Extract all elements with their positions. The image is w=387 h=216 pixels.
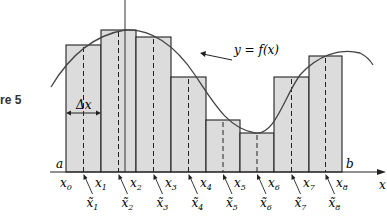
x-axis-label: x	[379, 178, 386, 192]
partition-label: x2	[130, 176, 142, 192]
delta-x-label: Δx	[75, 98, 92, 112]
sample-label: x̃1	[87, 196, 99, 212]
partition-label: x3	[165, 176, 177, 192]
sample-label: x̃4	[192, 196, 204, 212]
partition-label: x1	[95, 176, 107, 192]
partition-label: x6	[268, 176, 280, 192]
sample-label: x̃6	[260, 196, 272, 212]
sample-labels: x̃1x̃2x̃3x̃4x̃5x̃6x̃7x̃8	[84, 174, 341, 212]
partition-label: x5	[234, 176, 246, 192]
sample-label: x̃3	[157, 196, 169, 212]
partition-labels: x0x1x2x3x4x5x6x7x8	[60, 176, 348, 192]
riemann-rectangles	[66, 30, 342, 172]
riemann-sum-diagram: Δx y = f(x) a b x x0x1x2x3x4x5x6x7x8 x̃1…	[0, 0, 387, 216]
partition-label: x8	[336, 176, 348, 192]
function-label: y = f(x)	[233, 43, 279, 57]
partition-label: x0	[60, 176, 72, 192]
partition-label: x7	[303, 176, 316, 192]
partition-label: x4	[200, 176, 212, 192]
function-label-pointer	[203, 54, 232, 60]
endpoint-b: b	[346, 157, 354, 171]
pointer-arrow-icon	[200, 51, 206, 57]
endpoint-a: a	[56, 157, 63, 171]
x-axis-arrow-icon	[377, 169, 386, 175]
sample-label: x̃5	[226, 196, 238, 212]
sample-label: x̃8	[329, 196, 341, 212]
sample-label: x̃2	[122, 196, 134, 212]
sample-label: x̃7	[295, 196, 308, 212]
